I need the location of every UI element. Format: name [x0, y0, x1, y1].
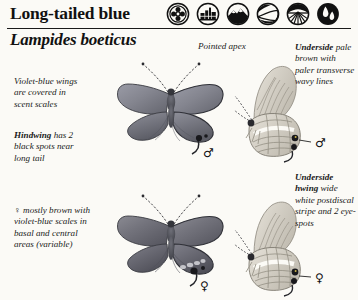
- annotation-pointed-apex-text: Pointed apex: [198, 41, 246, 51]
- annotation-underside-lead: Underside: [295, 42, 336, 52]
- page-title: Long-tailed blue: [10, 3, 130, 24]
- annotation-underside-hwing: Underside hwing wide white postdiscal st…: [295, 172, 357, 229]
- habitat-icon-row: [166, 2, 340, 26]
- hillside-path-icon: [256, 2, 280, 26]
- mountain-icon: [226, 2, 250, 26]
- farmland-rays-icon: [286, 2, 310, 26]
- header-divider: [7, 28, 351, 29]
- annotation-hindwing: Hindwing has 2 black spots near long tai…: [14, 130, 88, 164]
- page-header: Long-tailed blue: [0, 0, 358, 30]
- annotation-upperside-forewing-text: Violet-blue wings are covered in scent s…: [14, 76, 77, 109]
- field-guide-page: Long-tailed blue: [0, 0, 358, 300]
- specimen-male-upperside: [116, 50, 226, 160]
- annotation-female-upperside: ♀ mostly brown with violet-blue scales i…: [14, 205, 90, 251]
- specimen-female-upperside: [116, 180, 226, 295]
- sex-symbol-female-upperside: ♀: [200, 280, 209, 292]
- wetland-water-icon: [316, 2, 340, 26]
- sex-symbol-male-upperside: ♂: [203, 147, 214, 159]
- scientific-name: Lampides boeticus: [10, 30, 136, 50]
- sex-symbol-female-underside: ♀: [315, 272, 324, 284]
- urban-buildings-icon: [196, 2, 220, 26]
- annotation-underside: Underside pale brown with paler transver…: [295, 42, 355, 88]
- annotation-pointed-apex: Pointed apex: [198, 41, 278, 52]
- flower-meadow-icon: [166, 2, 190, 26]
- annotation-female-upperside-text: ♀ mostly brown with violet-blue scales i…: [14, 205, 90, 249]
- annotation-upperside-forewing: Violet-blue wings are covered in scent s…: [14, 76, 86, 110]
- sex-symbol-male-underside: ♂: [315, 137, 326, 149]
- annotation-hindwing-lead: Hindwing: [14, 130, 54, 140]
